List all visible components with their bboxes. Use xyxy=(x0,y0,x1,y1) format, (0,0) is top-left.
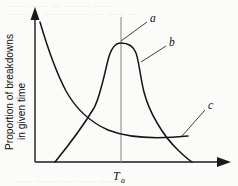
y-axis-title-line-1: Proportion of breakdowns xyxy=(4,34,15,150)
leader-line-b xyxy=(141,46,166,62)
x-tick-symbol: T xyxy=(113,169,121,183)
x-axis-arrowhead-icon xyxy=(217,157,231,167)
breakdown-curves-chart: a b c T a Proportion of breakdowns in gi… xyxy=(0,0,238,186)
y-axis-title: Proportion of breakdowns in given time xyxy=(4,34,27,150)
leader-line-a xyxy=(121,22,147,41)
figure-container: — — —— — ——— — — —— — ——— —— — —— — —— —… xyxy=(0,0,238,186)
y-axis-title-line-2: in given time xyxy=(16,82,27,140)
curve-label-c: c xyxy=(208,99,213,111)
curve-c-early-failure xyxy=(40,22,188,138)
curve-label-a: a xyxy=(150,12,156,24)
x-tick-subscript: a xyxy=(121,176,125,185)
y-axis-arrowhead-icon xyxy=(31,7,40,20)
axes-group xyxy=(31,7,232,167)
leader-line-c xyxy=(182,110,205,136)
curve-label-b: b xyxy=(169,36,175,48)
x-tick-label-ta: T a xyxy=(113,169,125,185)
leader-lines-group xyxy=(121,22,205,136)
curve-a-b-wear-out-hump xyxy=(55,43,192,162)
